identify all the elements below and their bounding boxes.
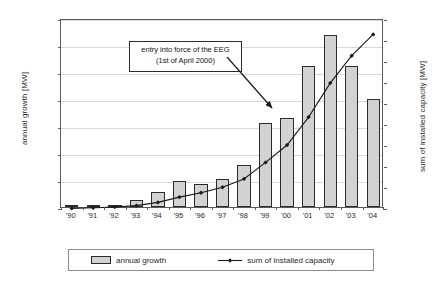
x-axis-tick-mark (341, 207, 342, 210)
legend-item-sum-of-installed-capacity: sum of installed capacity (218, 256, 334, 265)
line-marker (113, 205, 117, 209)
x-axis-tick-label: '96 (189, 212, 211, 220)
legend-bar-swatch-icon (91, 256, 111, 264)
annotation-line-2: (1st of April 2000) (132, 56, 239, 67)
legend-label-annual-growth: annual growth (116, 256, 166, 265)
x-axis-tick-mark (147, 207, 148, 210)
y-axis-right-tick-mark (384, 62, 387, 63)
legend-line-swatch-icon (218, 256, 242, 265)
y-axis-left-title: annual growth [MW] (20, 39, 29, 179)
x-axis-tick-label: '95 (167, 212, 189, 220)
x-axis-tick-mark (169, 207, 170, 210)
x-axis-tick-mark (319, 207, 320, 210)
x-axis-tick-mark (255, 207, 256, 210)
line-marker (70, 206, 74, 210)
legend-label-sum-of-installed-capacity: sum of installed capacity (247, 256, 334, 265)
line-marker (91, 206, 95, 210)
x-axis-tick-mark (104, 207, 105, 210)
chart-figure: annual growth [MW] sum of installed capa… (0, 0, 441, 290)
line-marker (199, 191, 203, 195)
y-axis-right-tick-mark (384, 83, 387, 84)
x-axis-tick-label: '97 (211, 212, 233, 220)
x-axis-tick-label: '00 (275, 212, 297, 220)
x-axis-tick-label: '02 (318, 212, 340, 220)
x-axis-tick-label: '98 (232, 212, 254, 220)
y-axis-right-tick-mark (384, 104, 387, 105)
x-axis-tick-mark (61, 207, 62, 210)
x-axis-tick-mark (363, 207, 364, 210)
x-axis-tick-label: '93 (124, 212, 146, 220)
legend-item-annual-growth: annual growth (91, 256, 166, 265)
x-axis-tick-label: '01 (297, 212, 319, 220)
x-axis-tick-mark (190, 207, 191, 210)
annotation-arrow-icon (225, 55, 315, 135)
line-marker (177, 195, 181, 199)
x-axis-tick-label: '94 (146, 212, 168, 220)
x-axis-tick-mark (126, 207, 127, 210)
x-axis-tick-mark (298, 207, 299, 210)
y-axis-right-tick-mark (384, 209, 387, 210)
x-axis-tick-mark (233, 207, 234, 210)
x-axis-tick-mark (83, 207, 84, 210)
x-axis-tick-label: '04 (361, 212, 383, 220)
annotation-line-1: entry into force of the EEG (132, 45, 239, 56)
y-axis-right-tick-mark (384, 41, 387, 42)
x-axis-tick-mark (383, 207, 384, 210)
x-axis-tick-label: '99 (254, 212, 276, 220)
line-marker (156, 200, 160, 204)
y-axis-right-tick-mark (384, 188, 387, 189)
line-marker (220, 185, 224, 189)
legend-line-glyph (218, 256, 242, 265)
y-axis-right-tick-mark (384, 167, 387, 168)
y-axis-right-tick-mark (384, 146, 387, 147)
y-axis-right-tick-mark (384, 20, 387, 21)
x-axis-tick-mark (276, 207, 277, 210)
x-axis-tick-label: '92 (103, 212, 125, 220)
y-axis-right-title: sum of installed capacity [MW] (418, 47, 427, 187)
x-axis-tick-label: '90 (60, 212, 82, 220)
chart-legend: annual growth sum of installed capacity (68, 249, 374, 271)
x-axis-tick-label: '91 (81, 212, 103, 220)
y-axis-right-tick-mark (384, 125, 387, 126)
x-axis-tick-mark (212, 207, 213, 210)
line-marker (134, 203, 138, 207)
x-axis-tick-label: '03 (340, 212, 362, 220)
